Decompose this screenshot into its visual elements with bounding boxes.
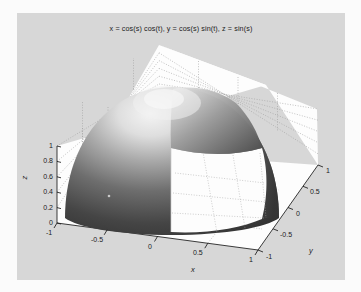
x-tick-label-0: 0 [148, 243, 152, 250]
x-tick-label-1: 1 [249, 256, 253, 263]
y-axis-label: y [309, 246, 313, 255]
axes-3d-plot: 1 0.8 0.6 0.4 0.2 0 -1 -0.5 0 0.5 1 -1 -… [17, 13, 345, 280]
z-tick-label-0.8: 0.8 [27, 157, 53, 164]
x-tick-label-0.5: 0.5 [193, 249, 203, 256]
y-tick-label-0: 0 [296, 210, 300, 217]
figure-panel: x = cos(s) cos(t), y = cos(s) sin(t), z … [17, 13, 345, 280]
z-tick-label-0: 0 [27, 219, 53, 226]
sphere-surface-plot [17, 13, 345, 280]
x-axis-label: x [191, 265, 195, 274]
y-tick-label--1: -1 [266, 253, 272, 260]
z-tick-label-0.4: 0.4 [27, 188, 53, 195]
y-tick-label-1: 1 [326, 167, 330, 174]
z-tick-label-0.6: 0.6 [27, 173, 53, 180]
z-tick-label-1: 1 [27, 142, 53, 149]
sphere-cut-interior-face [171, 148, 267, 232]
screenshot-root: x = cos(s) cos(t), y = cos(s) sin(t), z … [0, 0, 361, 292]
z-tick-label-0.2: 0.2 [27, 204, 53, 211]
sphere-dome [65, 86, 280, 235]
x-tick-label--0.5: -0.5 [91, 236, 103, 243]
y-tick-label-0.5: 0.5 [310, 188, 320, 195]
x-tick-label--1: -1 [46, 229, 52, 236]
y-tick-label--0.5: -0.5 [280, 231, 292, 238]
z-axis-label: z [20, 171, 29, 185]
